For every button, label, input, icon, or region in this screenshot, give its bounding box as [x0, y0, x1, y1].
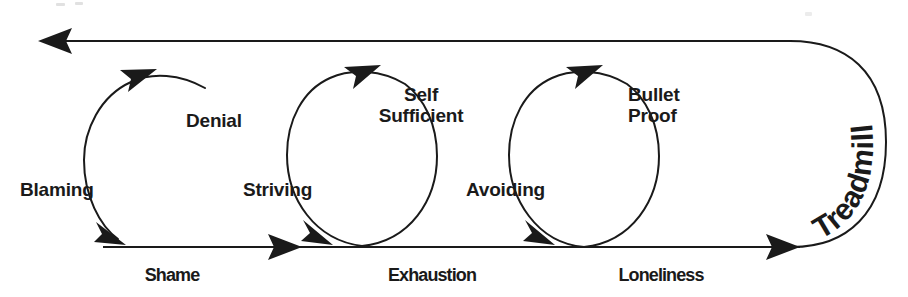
cycle-2-bottom-arrowhead: [301, 220, 333, 245]
stage-label-loneliness: Loneliness: [618, 265, 704, 285]
treadmill-curved-label: Treadmill: [807, 122, 880, 244]
stage-label-shame: Shame: [145, 265, 200, 285]
treadmill-svg-canvas: Denial Self Sufficient Bullet Proof Blam…: [0, 0, 908, 297]
cycle-2-side-label: Striving: [243, 179, 312, 200]
cycle-1-bottom-arrowhead: [94, 222, 126, 245]
cycle-3-top-arrowhead: [566, 65, 603, 89]
treadmill-text-path-ref: Treadmill: [807, 122, 880, 244]
cycle-3-inner-label-line2: Proof: [628, 105, 677, 126]
cycle-3-side-label: Avoiding: [466, 179, 545, 200]
stage-label-exhaustion: Exhaustion: [388, 265, 476, 285]
cycle-1-inner-label: Denial: [186, 110, 242, 131]
cycle-1-top-arrowhead: [120, 69, 157, 92]
cycle-2-inner-label-line2: Sufficient: [379, 105, 464, 126]
cycle-1-side-label: Blaming: [20, 179, 94, 200]
cycle-3-bottom-arrowhead: [523, 220, 555, 245]
cycle-3-inner-label-line1: Bullet: [628, 84, 680, 105]
cycle-2-top-arrowhead: [344, 65, 381, 89]
treadmill-diagram: Denial Self Sufficient Bullet Proof Blam…: [0, 0, 908, 297]
cycle-2-inner-label-line1: Self: [404, 84, 439, 105]
cycle-1-arc: [84, 76, 205, 239]
